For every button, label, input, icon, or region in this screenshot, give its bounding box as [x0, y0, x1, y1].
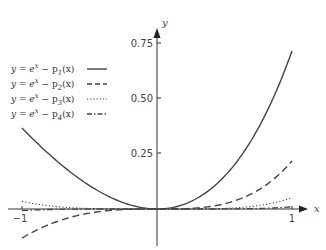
- y-tick-0.50: 0.50: [131, 93, 153, 104]
- legend-label-2: y = ex − p2(x): [10, 77, 74, 92]
- x-axis-arrow-icon: [299, 206, 308, 213]
- x-tick-1: 1: [289, 213, 295, 224]
- legend-label-3: y = ex − p3(x): [10, 92, 74, 107]
- x-axis-label: x: [314, 203, 320, 214]
- legend: y = ex − p1(x)y = ex − p2(x)y = ex − p3(…: [10, 62, 107, 122]
- y-tick-0.25: 0.25: [131, 148, 153, 159]
- y-tick-0.75: 0.75: [131, 38, 153, 49]
- y-axis-label: y: [161, 17, 168, 28]
- legend-label-1: y = ex − p1(x): [10, 62, 74, 77]
- legend-label-4: y = ex − p4(x): [10, 107, 74, 122]
- y-axis-arrow-icon: [154, 28, 161, 38]
- x-tick-minus-1: −1: [13, 213, 28, 224]
- chart: 0.75 0.50 0.25 −1 1 x y y = ex − p1(x)y …: [0, 0, 326, 250]
